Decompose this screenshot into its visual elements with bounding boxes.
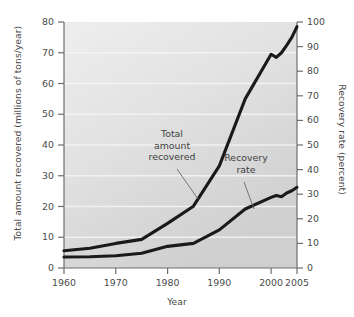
y-right-tick-label: 90 xyxy=(307,41,333,52)
y-right-tick-label: 40 xyxy=(307,164,333,175)
x-tick-label: 1990 xyxy=(199,277,239,288)
x-axis-title: Year xyxy=(0,296,354,307)
y-axis-right-ticks xyxy=(297,22,303,268)
y-left-tick-label: 10 xyxy=(28,231,54,242)
y-right-tick-label: 10 xyxy=(307,237,333,248)
y-left-tick-label: 80 xyxy=(28,16,54,27)
y-right-tick-label: 30 xyxy=(307,188,333,199)
x-tick-label: 2005 xyxy=(277,277,317,288)
y-left-tick-label: 20 xyxy=(28,201,54,212)
x-tick-label: 1970 xyxy=(96,277,136,288)
y-left-tick-label: 70 xyxy=(28,47,54,58)
annotation-line: Total xyxy=(130,128,214,140)
annotation-line: Recovery xyxy=(210,152,282,164)
x-axis-ticks xyxy=(64,268,297,274)
y-left-tick-label: 0 xyxy=(28,262,54,273)
y-right-tick-label: 50 xyxy=(307,139,333,150)
annotation-line: recovered xyxy=(130,151,214,163)
y-axis-left-ticks xyxy=(58,22,64,268)
y-left-tick-label: 40 xyxy=(28,139,54,150)
x-tick-label: 1980 xyxy=(148,277,188,288)
annotation-line: amount xyxy=(130,140,214,152)
x-tick-label: 1960 xyxy=(44,277,84,288)
y-right-tick-label: 70 xyxy=(307,90,333,101)
y-left-tick-label: 30 xyxy=(28,170,54,181)
line-chart: 80 70 60 50 40 30 20 10 0 100 90 80 70 6… xyxy=(0,0,354,317)
y-left-tick-label: 50 xyxy=(28,108,54,119)
y-right-tick-label: 80 xyxy=(307,65,333,76)
y-left-tick-label: 60 xyxy=(28,78,54,89)
y-axis-right-title: Recovery rate (percent) xyxy=(337,50,348,230)
annotation-recovery-rate: Recovery rate xyxy=(210,152,282,175)
y-right-tick-label: 60 xyxy=(307,114,333,125)
annotation-total-amount-recovered: Total amount recovered xyxy=(130,128,214,163)
y-right-tick-label: 0 xyxy=(307,262,333,273)
annotation-line: rate xyxy=(210,164,282,176)
y-right-tick-label: 20 xyxy=(307,213,333,224)
y-axis-left-title: Total amount recovered (millions of tons… xyxy=(12,41,23,241)
y-right-tick-label: 100 xyxy=(307,16,333,27)
